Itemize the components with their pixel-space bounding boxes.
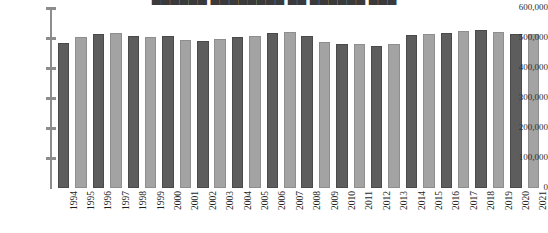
y-tick-label: 400,000	[504, 63, 548, 72]
x-tick-label-2005: 2005	[260, 191, 271, 231]
bar-2006	[267, 33, 278, 188]
bar-2007	[284, 32, 295, 188]
x-tick-label-2003: 2003	[225, 191, 236, 231]
x-tick-label-2001: 2001	[190, 191, 201, 231]
bar-1996	[93, 34, 104, 188]
x-tick-label-2009: 2009	[330, 191, 341, 231]
plot-area	[55, 8, 542, 188]
bar-2016	[441, 33, 452, 188]
bar-1997	[110, 33, 121, 188]
bar-2004	[232, 37, 243, 188]
x-tick-label-2006: 2006	[277, 191, 288, 231]
x-tick-label-2015: 2015	[434, 191, 445, 231]
bar-2017	[458, 31, 469, 188]
x-tick-label-2016: 2016	[451, 191, 462, 231]
bar-2003	[214, 39, 225, 188]
bar-chart: ██████ ████████ ██ ██████ ███ 1994199519…	[0, 0, 548, 233]
y-tick-mark	[46, 7, 56, 10]
x-tick-label-2012: 2012	[382, 191, 393, 231]
x-tick-label-2008: 2008	[312, 191, 323, 231]
bar-2014	[406, 35, 417, 188]
bar-2015	[423, 34, 434, 189]
y-tick-label: 200,000	[504, 123, 548, 132]
bar-2021	[528, 34, 539, 189]
bar-1999	[145, 37, 156, 188]
x-tick-label-2011: 2011	[364, 191, 375, 231]
bar-2009	[319, 42, 330, 188]
bar-2008	[301, 36, 312, 188]
x-tick-label-2020: 2020	[521, 191, 532, 231]
bar-2012	[371, 46, 382, 188]
y-tick-label: 600,000	[504, 3, 548, 12]
bar-2000	[162, 36, 173, 188]
x-tick-label-2017: 2017	[469, 191, 480, 231]
bar-2011	[354, 44, 365, 188]
y-tick-mark	[46, 97, 56, 100]
bar-2020	[510, 34, 521, 188]
x-tick-label-2007: 2007	[295, 191, 306, 231]
bar-2019	[493, 32, 504, 188]
bar-1994	[58, 43, 69, 188]
x-tick-label-2021: 2021	[538, 191, 548, 231]
x-tick-label-1995: 1995	[86, 191, 97, 231]
x-tick-label-2004: 2004	[243, 191, 254, 231]
x-tick-label-1997: 1997	[121, 191, 132, 231]
bar-2002	[197, 41, 208, 188]
x-tick-label-1998: 1998	[138, 191, 149, 231]
y-tick-mark	[46, 127, 56, 130]
bar-2001	[180, 40, 191, 189]
y-tick-mark	[46, 67, 56, 70]
y-tick-label: 100,000	[504, 153, 548, 162]
bar-2013	[388, 44, 399, 188]
chart-title-text: ██████ ████████ ██ ██████ ███	[152, 0, 397, 5]
bar-1995	[75, 37, 86, 188]
bar-1998	[128, 36, 139, 188]
y-tick-label: 300,000	[504, 93, 548, 102]
bar-2018	[475, 30, 486, 188]
chart-title-cropped: ██████ ████████ ██ ██████ ███	[0, 0, 548, 5]
y-tick-mark	[46, 37, 56, 40]
x-tick-label-2002: 2002	[208, 191, 219, 231]
bar-2005	[249, 36, 260, 188]
y-tick-mark	[46, 157, 56, 160]
x-tick-label-2019: 2019	[504, 191, 515, 231]
bar-2010	[336, 44, 347, 188]
x-axis-labels: 1994199519961997199819992000200120022003…	[55, 189, 542, 233]
y-tick-label-zero: 0	[504, 183, 548, 192]
x-tick-label-1994: 1994	[69, 191, 80, 231]
x-tick-label-2010: 2010	[347, 191, 358, 231]
x-tick-label-2014: 2014	[417, 191, 428, 231]
y-tick-label: 500,000	[504, 33, 548, 42]
x-tick-label-2013: 2013	[399, 191, 410, 231]
x-tick-label-2000: 2000	[173, 191, 184, 231]
x-tick-label-1996: 1996	[103, 191, 114, 231]
x-tick-label-1999: 1999	[156, 191, 167, 231]
x-tick-label-2018: 2018	[486, 191, 497, 231]
